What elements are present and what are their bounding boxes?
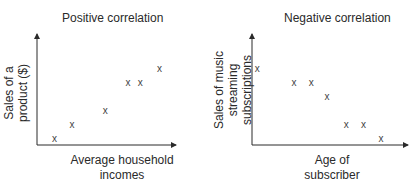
right-data-points: xxxxxxx [255,63,384,144]
data-point-marker: x [70,119,75,130]
data-point-marker: x [255,63,260,74]
data-point-marker: x [52,133,57,144]
right-axes [252,34,408,145]
left-axes [37,34,176,145]
data-point-marker: x [361,119,366,130]
chart-canvas: xxxxxx xxxxxxx [0,0,419,185]
data-point-marker: x [309,77,314,88]
data-point-marker: x [344,119,349,130]
data-point-marker: x [291,77,296,88]
data-point-marker: x [103,105,108,116]
data-point-marker: x [157,63,162,74]
data-point-marker: x [138,77,143,88]
data-point-marker: x [126,77,131,88]
left-data-points: xxxxxx [52,63,162,144]
data-point-marker: x [325,91,330,102]
data-point-marker: x [379,133,384,144]
